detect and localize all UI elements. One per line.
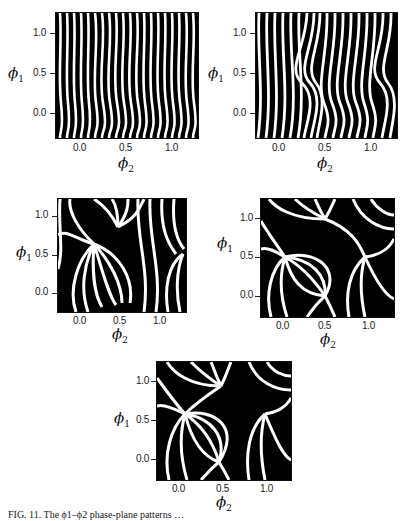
x-tick-label: 0.0 (73, 142, 86, 153)
y-tick (255, 296, 260, 297)
y-tick (52, 255, 57, 256)
y-tick (151, 459, 156, 460)
stripe-pattern-vertical-kinked (256, 13, 397, 138)
y-tick-label: 0.0 (35, 286, 48, 297)
y-tick-label: 1.0 (233, 27, 246, 38)
y-axis-label: ϕ1 (208, 64, 224, 84)
y-tick (250, 113, 255, 114)
y-tick (52, 216, 57, 217)
y-axis-label: ϕ1 (114, 409, 130, 429)
y-tick-label: 0.0 (33, 107, 46, 118)
y-tick-label: 1.0 (136, 375, 149, 386)
phase-plot-5 (156, 361, 292, 481)
y-tick-label: 0.5 (136, 414, 149, 425)
y-axis-label: ϕ1 (16, 243, 32, 263)
y-tick (255, 218, 260, 219)
stripe-pattern-vortex (157, 362, 291, 480)
x-tick-label: 0.5 (318, 142, 331, 153)
y-axis-label: ϕ1 (217, 234, 233, 254)
y-tick (52, 293, 57, 294)
x-tick-label: 0.0 (276, 320, 289, 331)
stripe-pattern-vertical-wavy (56, 13, 198, 138)
y-tick-label: 1.0 (33, 27, 46, 38)
y-tick-label: 0.5 (240, 250, 253, 261)
y-tick-label: 0.0 (233, 107, 246, 118)
x-axis-label: ϕ2 (118, 154, 134, 174)
y-tick (250, 73, 255, 74)
phase-plot-1 (55, 12, 199, 139)
y-tick (50, 33, 55, 34)
x-tick-label: 0.0 (172, 483, 185, 494)
x-tick-label: 0.5 (119, 142, 132, 153)
x-axis-label: ϕ2 (317, 154, 333, 174)
stripe-pattern-vortex (58, 199, 186, 312)
y-tick-label: 0.5 (35, 248, 48, 259)
y-axis-label: ϕ1 (8, 64, 24, 84)
x-axis-label: ϕ2 (216, 493, 232, 513)
x-tick-label: 0.0 (272, 142, 285, 153)
y-tick (151, 381, 156, 382)
y-tick-label: 1.0 (35, 209, 48, 220)
y-tick (250, 33, 255, 34)
y-tick-label: 0.0 (136, 453, 149, 464)
y-tick (50, 73, 55, 74)
y-tick-label: 1.0 (240, 212, 253, 223)
x-tick-label: 0.0 (73, 315, 86, 326)
stripe-pattern-vortex (261, 199, 394, 317)
y-tick-label: 0.5 (233, 67, 246, 78)
y-tick (255, 257, 260, 258)
x-tick-label: 1.0 (165, 142, 178, 153)
y-tick (151, 420, 156, 421)
y-tick (50, 113, 55, 114)
x-axis-label: ϕ2 (320, 330, 336, 350)
figure-caption: FIG. 11. The ϕ1–ϕ2 phase-plane patterns … (8, 509, 184, 520)
x-tick-label: 1.0 (153, 315, 166, 326)
y-tick-label: 0.0 (240, 289, 253, 300)
phase-plot-4 (260, 198, 395, 318)
x-axis-label: ϕ2 (112, 325, 128, 345)
y-tick-label: 0.5 (33, 67, 46, 78)
x-tick-label: 1.0 (260, 483, 273, 494)
phase-plot-2 (255, 12, 398, 139)
x-tick-label: 1.0 (362, 320, 375, 331)
phase-plot-3 (57, 198, 187, 313)
x-tick-label: 1.0 (364, 142, 377, 153)
